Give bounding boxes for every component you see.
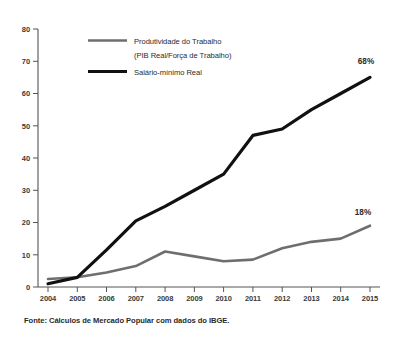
x-tick-2010: 2010 — [215, 294, 231, 303]
y-tick-50: 50 — [22, 122, 30, 131]
x-tick-2011: 2011 — [245, 294, 261, 303]
y-tick-70: 70 — [22, 57, 30, 66]
x-tick-2004: 2004 — [40, 294, 57, 303]
y-tick-60: 60 — [22, 89, 30, 98]
x-tick-2007: 2007 — [128, 294, 144, 303]
line-chart: 0 10 20 30 40 50 60 70 80 2004 — [0, 0, 407, 340]
y-tick-30: 30 — [22, 186, 30, 195]
legend-label-produtividade-line2: (PIB Real/Força de Trabalho) — [134, 51, 232, 60]
y-tick-20: 20 — [22, 218, 30, 227]
y-tick-10: 10 — [22, 251, 30, 260]
x-tick-2008: 2008 — [157, 294, 173, 303]
chart-figure: 0 10 20 30 40 50 60 70 80 2004 — [0, 0, 407, 340]
y-axis-labels: 0 10 20 30 40 50 60 70 80 — [22, 25, 30, 292]
x-tick-2012: 2012 — [274, 294, 290, 303]
x-tick-2005: 2005 — [69, 294, 85, 303]
x-tick-2006: 2006 — [98, 294, 114, 303]
x-tick-2015: 2015 — [362, 294, 378, 303]
x-tick-2009: 2009 — [186, 294, 202, 303]
annotation-wage-end: 68% — [358, 57, 375, 66]
source-note: Fonte: Cálculos de Mercado Popular com d… — [24, 316, 229, 325]
legend-label-produtividade-line1: Produtividade do Trabalho — [134, 37, 221, 46]
y-tick-80: 80 — [22, 25, 30, 34]
x-tick-2013: 2013 — [303, 294, 319, 303]
y-tick-40: 40 — [22, 154, 30, 163]
annotation-productivity-end: 18% — [355, 208, 372, 217]
y-tick-0: 0 — [26, 283, 30, 292]
x-tick-2014: 2014 — [333, 294, 350, 303]
legend-label-salario-minimo: Salário-mínimo Real — [134, 68, 202, 77]
